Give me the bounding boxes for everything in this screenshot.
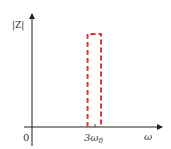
y-axis-label: |Z|	[12, 20, 24, 31]
impedance-curve	[88, 34, 102, 127]
origin-label: 0	[23, 132, 29, 143]
x-tick-label: 3ω0	[84, 132, 104, 145]
impedance-chart: |Z| 0 3ω0 ω	[0, 0, 171, 149]
x-axis-label: ω	[144, 131, 152, 142]
